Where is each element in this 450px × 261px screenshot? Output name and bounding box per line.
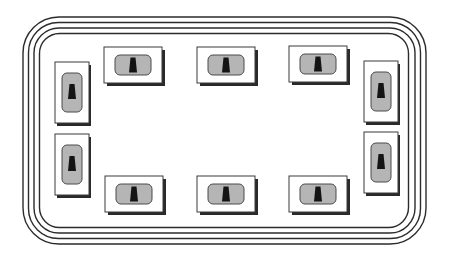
top-switch-row xyxy=(104,46,350,86)
switch-unit-bottom-1[interactable] xyxy=(105,176,166,215)
diagram-canvas xyxy=(0,0,450,261)
switch-unit-top-3[interactable] xyxy=(289,46,350,85)
switch-unit-bottom-3[interactable] xyxy=(289,176,350,215)
switch-unit-right-1[interactable] xyxy=(364,61,400,125)
bottom-switch-row xyxy=(105,176,350,215)
switch-unit-left-2[interactable] xyxy=(55,134,91,198)
switch-unit-left-1[interactable] xyxy=(55,62,91,126)
left-switch-column xyxy=(55,62,91,198)
switch-unit-right-2[interactable] xyxy=(364,132,400,196)
switch-unit-top-2[interactable] xyxy=(197,47,258,86)
switch-unit-top-1[interactable] xyxy=(104,47,165,86)
switch-panel-diagram xyxy=(0,0,450,261)
right-switch-column xyxy=(364,61,400,196)
switch-unit-bottom-2[interactable] xyxy=(197,176,258,215)
